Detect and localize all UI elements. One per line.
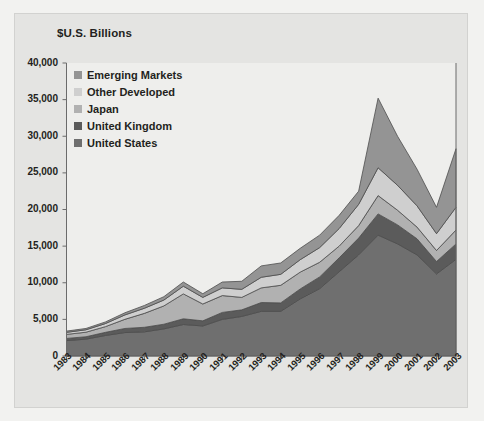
legend-item-label: Japan — [87, 103, 119, 115]
chart-figure: $U.S. Billions 05,00010,00015,00020,0002… — [0, 0, 484, 421]
legend-swatch-icon — [74, 122, 82, 130]
y-tick-label: 5,000 — [6, 313, 58, 324]
legend-item-label: United States — [87, 137, 157, 149]
legend-item: Japan — [74, 100, 182, 117]
legend-item-label: Other Developed — [87, 86, 175, 98]
y-tick-label: 15,000 — [6, 240, 58, 251]
legend-item-label: United Kingdom — [87, 120, 172, 132]
y-tick-label: 0 — [6, 350, 58, 361]
legend-swatch-icon — [74, 71, 82, 79]
legend-swatch-icon — [74, 139, 82, 147]
legend-swatch-icon — [74, 105, 82, 113]
y-tick-label: 40,000 — [6, 57, 58, 68]
legend-item-label: Emerging Markets — [87, 69, 182, 81]
y-tick-label: 20,000 — [6, 203, 58, 214]
legend-item: United Kingdom — [74, 117, 182, 134]
y-tick-label: 10,000 — [6, 276, 58, 287]
y-tick-label: 30,000 — [6, 130, 58, 141]
legend-item: Emerging Markets — [74, 66, 182, 83]
y-tick-label: 25,000 — [6, 166, 58, 177]
legend-item: Other Developed — [74, 83, 182, 100]
chart-legend: Emerging MarketsOther DevelopedJapanUnit… — [74, 66, 182, 151]
y-tick-label: 35,000 — [6, 93, 58, 104]
legend-item: United States — [74, 134, 182, 151]
legend-swatch-icon — [74, 88, 82, 96]
